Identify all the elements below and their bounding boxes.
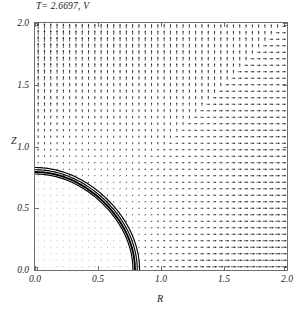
x-tick-0.5 [98,266,99,270]
x-tick-1.5 [224,23,225,27]
x-tick-label-1.5: 1.5 [218,274,230,284]
y-tick-label-1.5: 1.5 [4,80,29,90]
y-tick-2.0 [283,23,287,24]
y-tick-label-0.5: 0.5 [4,203,29,213]
interface-arc-0 [35,174,133,270]
y-tick-0.5 [283,208,287,209]
y-axis-label: Z [11,135,17,146]
x-tick-2.0 [287,23,288,27]
y-tick-0.0 [283,270,287,271]
y-tick-label-2.0: 2.0 [4,18,29,28]
x-tick-label-2.0: 2.0 [281,274,293,284]
x-tick-2.0 [287,266,288,270]
x-tick-label-0.5: 0.5 [92,274,104,284]
interface-arc-2 [35,170,137,270]
y-tick-2.0 [35,23,39,24]
interface-curve-layer [35,23,287,270]
interface-arc-3 [35,168,140,270]
x-tick-label-0.0: 0.0 [29,274,41,284]
y-tick-0.5 [35,208,39,209]
x-tick-1.0 [161,23,162,27]
y-tick-0.0 [35,270,39,271]
x-tick-1.5 [224,266,225,270]
y-tick-1.5 [35,85,39,86]
interface-arc-1 [35,172,135,270]
plot-title: T= 2.6697, V [36,1,89,11]
vector-field-plot: T= 2.6697, V 0.00.51.01.52.0 0.00.51.01.… [0,0,304,310]
x-tick-1.0 [161,266,162,270]
y-tick-1.0 [283,147,287,148]
y-tick-1.5 [283,85,287,86]
x-axis-label: R [157,293,163,304]
plot-frame [34,22,288,271]
x-tick-0.5 [98,23,99,27]
y-tick-label-0.0: 0.0 [4,265,29,275]
x-tick-label-1.0: 1.0 [155,274,167,284]
y-tick-1.0 [35,147,39,148]
